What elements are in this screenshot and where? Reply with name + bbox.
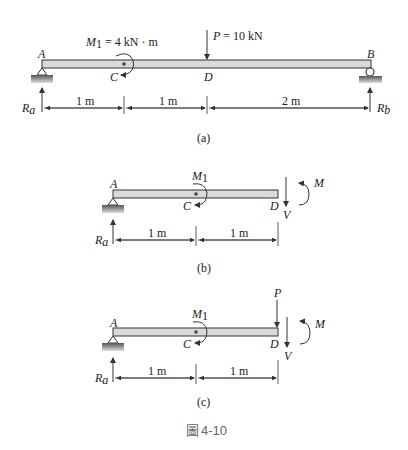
load-p-label: P = 10 kN: [212, 29, 263, 43]
moment-m1-label: M1: [191, 307, 208, 323]
internal-moment-m-label: M: [313, 176, 325, 190]
dim-a-1: 1 m: [76, 94, 95, 108]
pin-support-a: [31, 68, 53, 83]
point-c-marker: [194, 330, 198, 334]
pin-support-c-a: [102, 336, 124, 351]
dim-a-3: 2 m: [282, 94, 301, 108]
dim-b-1: 1 m: [148, 226, 167, 240]
reaction-rb-label: Rb: [376, 101, 390, 117]
dim-b-2: 1 m: [230, 226, 249, 240]
panel-b: A C D M1 V M Ra 1 m 1 m (b): [94, 169, 325, 275]
pin-support-b-a: [102, 198, 124, 213]
reaction-ra-label: Ra: [94, 233, 108, 249]
shear-v-label: V: [283, 208, 292, 222]
roller-support-b: [359, 68, 382, 83]
point-a-label: A: [109, 177, 118, 191]
panel-c: A C D M1 P V M Ra 1 m 1 m (c): [94, 286, 326, 409]
beam-figure: A B C D M1 = 4 kN · m P = 10 kN Ra Rb 1 …: [0, 0, 408, 450]
beam-a: [42, 60, 371, 68]
point-c-label: C: [183, 337, 192, 351]
panel-c-label: (c): [197, 395, 210, 409]
point-d-label: D: [269, 337, 279, 351]
point-c-marker: [194, 192, 198, 196]
point-c-marker: [122, 62, 126, 66]
dim-c-2: 1 m: [230, 364, 249, 378]
dim-c-1: 1 m: [148, 364, 167, 378]
shear-v-label: V: [284, 349, 293, 363]
dim-a-2: 1 m: [159, 94, 178, 108]
point-c-label: C: [110, 70, 119, 84]
point-d-label: D: [269, 199, 279, 213]
caption-number: 4-10: [201, 423, 227, 438]
moment-m1-label: M1: [191, 169, 208, 185]
internal-moment-m-label: M: [314, 317, 326, 331]
panel-a-label: (a): [197, 131, 210, 145]
moment-m1-label: M1 = 4 kN · m: [85, 35, 158, 51]
dimension-line-b: [115, 222, 278, 246]
reaction-ra-label: Ra: [94, 371, 108, 387]
point-a-label: A: [37, 47, 46, 61]
load-p-label: P: [273, 286, 282, 300]
dimension-line-c: [115, 360, 278, 384]
internal-moment-m-arrow: [299, 183, 309, 205]
internal-moment-m-arrow: [300, 321, 310, 344]
panel-b-label: (b): [197, 261, 211, 275]
reaction-ra-label: Ra: [21, 101, 35, 117]
panel-a: A B C D M1 = 4 kN · m P = 10 kN Ra Rb 1 …: [21, 29, 390, 145]
caption-prefix: 圖: [186, 423, 199, 438]
point-c-label: C: [183, 199, 192, 213]
figure-caption: 圖 4-10: [186, 423, 227, 438]
point-b-label: B: [367, 47, 375, 61]
point-a-label: A: [109, 316, 118, 330]
point-d-label: D: [203, 70, 213, 84]
